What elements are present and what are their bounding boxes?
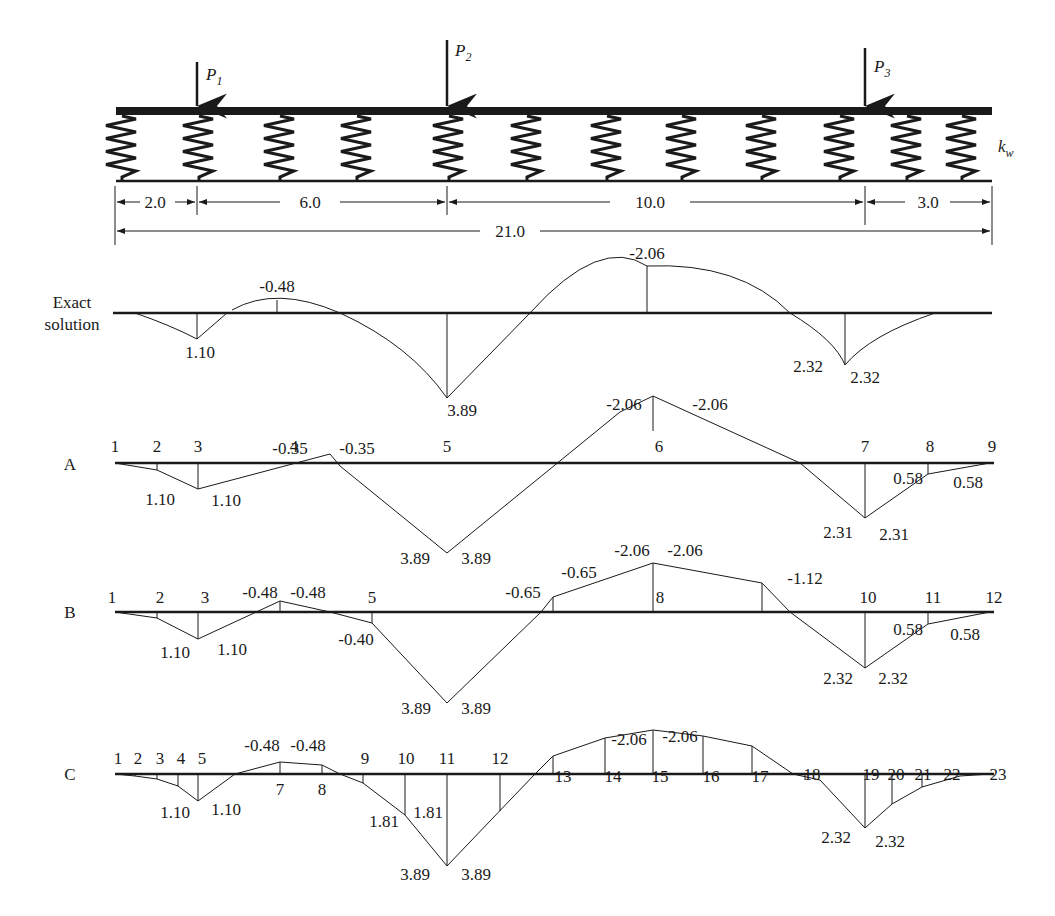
node-number: 12 [492, 749, 509, 768]
node-number: 10 [860, 588, 877, 607]
svg-text:1.10: 1.10 [211, 800, 241, 819]
dim-3-0: 3.0 [917, 193, 938, 212]
svg-text:3.89: 3.89 [400, 549, 430, 568]
node-number: 2 [134, 749, 143, 768]
spring-icon [891, 116, 921, 181]
svg-text:1.81: 1.81 [369, 812, 399, 831]
svg-text:-2.06: -2.06 [667, 541, 702, 560]
node-number: 5 [368, 588, 377, 607]
panel-label-exact-2: solution [45, 315, 100, 334]
panel-c-values: 1.10 1.10 -0.48 -0.48 1.81 1.81 3.89 3.8… [160, 727, 905, 884]
svg-text:3.89: 3.89 [400, 865, 430, 884]
svg-text:3.89: 3.89 [401, 699, 431, 718]
node-number: 19 [863, 765, 880, 784]
spring-icon [433, 116, 463, 181]
load-label-p2: P2 [454, 41, 471, 64]
svg-text:1.10: 1.10 [145, 490, 175, 509]
panel-a-values: 1.10 1.10 -0.35 -0.35 3.89 3.89 -2.06 -2… [145, 395, 983, 568]
node-number: 3 [156, 749, 165, 768]
node-number: 8 [656, 588, 665, 607]
node-number: 2 [156, 588, 165, 607]
node-number: 11 [439, 749, 455, 768]
svg-text:2.31: 2.31 [879, 525, 909, 544]
node-number: 2 [153, 437, 162, 456]
svg-text:3.89: 3.89 [461, 549, 491, 568]
spring-icon [591, 116, 621, 181]
spring-icon [341, 116, 371, 181]
svg-text:-0.35: -0.35 [272, 439, 307, 458]
node-number: 1 [108, 588, 117, 607]
node-number: 20 [888, 765, 905, 784]
exact-val: 2.32 [793, 357, 823, 376]
panel-label-exact: Exact [53, 293, 92, 312]
svg-text:0.58: 0.58 [893, 469, 923, 488]
node-number: 10 [398, 749, 415, 768]
svg-text:1.10: 1.10 [217, 640, 247, 659]
node-number: 4 [177, 749, 186, 768]
svg-text:0.58: 0.58 [953, 473, 983, 492]
svg-text:0.58: 0.58 [950, 625, 980, 644]
svg-text:1.10: 1.10 [160, 803, 190, 822]
node-number: 3 [194, 437, 203, 456]
panel-label-c: C [64, 765, 75, 784]
node-number: 1 [114, 749, 123, 768]
svg-text:2.32: 2.32 [875, 832, 905, 851]
svg-text:-0.65: -0.65 [561, 563, 596, 582]
node-number: 16 [703, 767, 720, 786]
svg-text:-0.35: -0.35 [339, 439, 374, 458]
node-number: 7 [276, 780, 285, 799]
spring-icon [946, 116, 976, 181]
exact-val: 2.32 [850, 368, 880, 387]
svg-text:-2.06: -2.06 [662, 727, 697, 746]
node-number: 1 [111, 437, 120, 456]
svg-text:-0.40: -0.40 [338, 630, 373, 649]
beam-moment-diagram: P1 P2 P3 kw 2.0 6.0 10.0 3.0 21.0 [0, 0, 1055, 916]
load-label-p1: P1 [205, 65, 222, 88]
node-number: 3 [201, 588, 210, 607]
svg-text:2.32: 2.32 [878, 669, 908, 688]
node-number: 5 [198, 749, 207, 768]
svg-text:-0.48: -0.48 [244, 736, 279, 755]
svg-text:-0.48: -0.48 [290, 736, 325, 755]
panel-label-a: A [64, 455, 77, 474]
node-number: 21 [915, 765, 932, 784]
svg-text:2.32: 2.32 [821, 828, 851, 847]
spring-icon [746, 116, 776, 181]
dim-2-0: 2.0 [144, 193, 165, 212]
load-label-p3: P3 [873, 57, 890, 80]
spring-icon [511, 116, 541, 181]
svg-text:-2.06: -2.06 [692, 395, 727, 414]
node-number: 11 [925, 588, 941, 607]
spring-icon [264, 116, 294, 181]
svg-text:2.32: 2.32 [823, 669, 853, 688]
beam-schematic: P1 P2 P3 kw [106, 40, 1014, 181]
exact-val: -0.48 [259, 277, 294, 296]
panel-b-values: 1.10 1.10 -0.48 -0.48 -0.40 3.89 3.89 -0… [160, 541, 980, 718]
svg-text:0.58: 0.58 [893, 620, 923, 639]
panel-a [115, 396, 994, 553]
spring-stiffness-label: kw [998, 137, 1014, 160]
node-number: 17 [752, 767, 770, 786]
node-number: 8 [318, 780, 327, 799]
svg-text:3.89: 3.89 [461, 865, 491, 884]
node-number: 7 [861, 437, 870, 456]
svg-text:-0.48: -0.48 [242, 583, 277, 602]
spring-icon [183, 116, 213, 181]
node-number: 22 [944, 765, 961, 784]
spring-icon [106, 116, 136, 181]
dim-6-0: 6.0 [299, 193, 320, 212]
node-number: 8 [926, 437, 935, 456]
node-number: 23 [990, 765, 1007, 784]
exact-val: -2.06 [629, 244, 664, 263]
node-number: 13 [555, 767, 572, 786]
svg-text:-1.12: -1.12 [787, 569, 822, 588]
dim-total: 21.0 [495, 222, 525, 241]
node-number: 9 [988, 437, 997, 456]
svg-text:2.31: 2.31 [823, 523, 853, 542]
exact-val: 1.10 [185, 343, 215, 362]
svg-text:1.81: 1.81 [413, 803, 443, 822]
node-number: 15 [652, 767, 669, 786]
spring-row [106, 116, 976, 181]
svg-text:-0.65: -0.65 [505, 583, 540, 602]
node-number: 5 [443, 437, 452, 456]
